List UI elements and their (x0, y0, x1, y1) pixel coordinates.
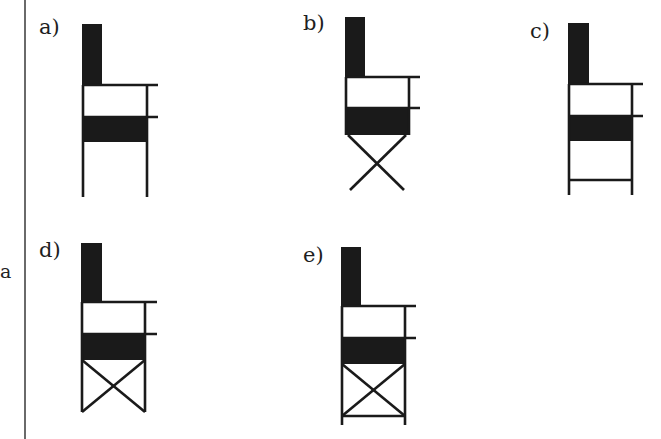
chair-c-icon (568, 23, 643, 195)
chair-e-icon (341, 247, 416, 425)
chair-d-icon (81, 243, 157, 412)
chair-figures (0, 0, 661, 439)
chair-a-icon (82, 24, 158, 197)
chair-b-icon (345, 17, 420, 190)
